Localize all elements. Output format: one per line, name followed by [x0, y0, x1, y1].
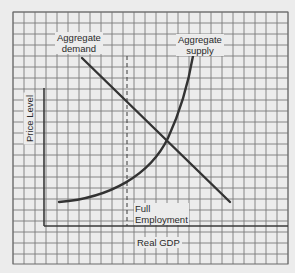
as-label-line1: Aggregate: [178, 34, 222, 45]
as-label-line2: supply: [178, 45, 222, 56]
fe-label-line2: Employment: [135, 214, 188, 225]
ad-label-line1: Aggregate: [57, 32, 101, 43]
full-employment-label: Full Employment: [134, 203, 189, 225]
y-axis-label: Price Level: [24, 93, 35, 145]
aggregate-demand-label: Aggregate demand: [55, 32, 103, 54]
aggregate-supply-label: Aggregate supply: [176, 34, 224, 56]
fe-label-line1: Full: [135, 203, 188, 214]
x-axis-label: Real GDP: [135, 237, 182, 248]
ad-label-line2: demand: [57, 43, 101, 54]
chart-canvas: [0, 0, 295, 273]
